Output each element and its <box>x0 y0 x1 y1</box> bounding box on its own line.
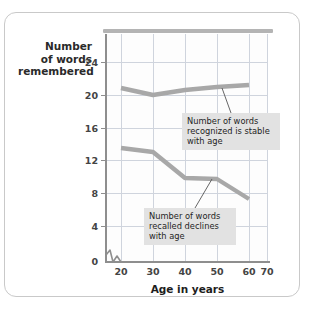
y-tickmark-12 <box>101 160 105 161</box>
gridline-y-24 <box>105 62 268 63</box>
gridline-x-20 <box>121 34 122 262</box>
y-tickmark-8 <box>101 193 105 194</box>
annotation-recognized-line-2: recognized is stable <box>187 126 275 136</box>
annotation-recalled-line-3: with age <box>149 231 231 241</box>
y-tickmark-20 <box>101 95 105 96</box>
y-tick-label-24: 24 <box>72 57 98 68</box>
y-tick-label-4: 4 <box>72 221 98 232</box>
chart-figure: Number of words remembered 24 20 16 12 8… <box>0 0 312 313</box>
x-axis-title: Age in years <box>105 283 270 295</box>
annotation-recognized: Number of words recognized is stable wit… <box>182 113 280 150</box>
y-tick-label-8: 8 <box>72 188 98 199</box>
gridline-y-12 <box>105 160 268 161</box>
x-tick-label-50: 50 <box>205 266 229 277</box>
plot-top-bar <box>103 29 273 33</box>
y-axis-line <box>105 34 107 262</box>
y-tick-label-12: 12 <box>72 155 98 166</box>
y-axis-title-line-1: Number <box>18 40 92 53</box>
x-axis-line <box>105 261 270 263</box>
x-tick-label-30: 30 <box>141 266 165 277</box>
x-tick-label-20: 20 <box>109 266 133 277</box>
annotation-recognized-line-1: Number of words <box>187 116 275 126</box>
y-tick-label-20: 20 <box>72 90 98 101</box>
y-tick-label-16: 16 <box>72 123 98 134</box>
x-tick-label-70: 70 <box>255 266 279 277</box>
annotation-recalled: Number of words recalled declines with a… <box>144 208 236 245</box>
y-tick-label-0: 0 <box>72 256 98 267</box>
x-tick-label-40: 40 <box>173 266 197 277</box>
y-tickmark-24 <box>101 62 105 63</box>
annotation-recalled-line-1: Number of words <box>149 211 231 221</box>
y-tickmark-16 <box>101 128 105 129</box>
annotation-recognized-line-3: with age <box>187 136 275 146</box>
gridline-y-20 <box>105 95 268 96</box>
y-tickmark-4 <box>101 226 105 227</box>
gridline-y-8 <box>105 193 268 194</box>
annotation-recalled-line-2: recalled declines <box>149 221 231 231</box>
